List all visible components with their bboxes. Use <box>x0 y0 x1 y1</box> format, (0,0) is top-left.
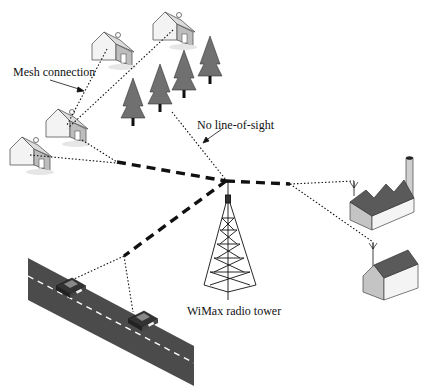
wimax-diagram: Mesh connection No line-of-sight WiMax r… <box>0 0 424 392</box>
road <box>28 258 194 386</box>
mesh-connection-label: Mesh connection <box>13 66 95 78</box>
building <box>363 242 418 300</box>
no-line-of-sight-label: No line-of-sight <box>197 119 274 131</box>
house-top-left <box>92 32 136 70</box>
factory <box>350 156 414 230</box>
tower-label: WiMax radio tower <box>187 305 281 317</box>
wimax-links <box>117 162 290 256</box>
radio-tower <box>204 181 256 300</box>
house-bottom-left <box>10 137 54 175</box>
house-top-right <box>153 12 197 50</box>
